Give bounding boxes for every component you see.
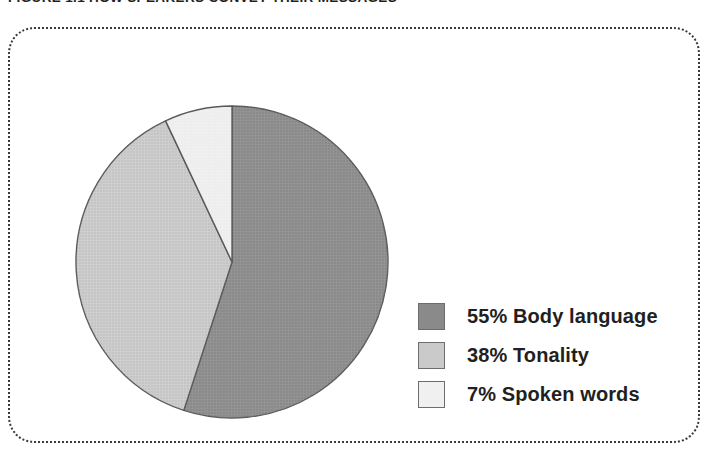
- legend-swatch: [418, 381, 445, 408]
- legend-swatch: [418, 342, 445, 369]
- legend-item: 55% Body language: [418, 297, 688, 336]
- legend-label: 38% Tonality: [467, 344, 589, 367]
- pie-slices: [76, 106, 388, 418]
- legend-item: 38% Tonality: [418, 336, 688, 375]
- legend-label: 55% Body language: [467, 305, 658, 328]
- chart-legend: 55% Body language38% Tonality7% Spoken w…: [418, 297, 688, 414]
- figure-caption-strip: FIGURE 1.1 HOW SPEAKERS CONVEY THEIR MES…: [0, 0, 725, 9]
- pie-chart-svg: [73, 103, 391, 421]
- legend-swatch: [418, 303, 445, 330]
- pie-chart: [73, 103, 391, 421]
- legend-label: 7% Spoken words: [467, 383, 640, 406]
- legend-item: 7% Spoken words: [418, 375, 688, 414]
- figure-caption: FIGURE 1.1 HOW SPEAKERS CONVEY THEIR MES…: [8, 0, 397, 5]
- figure-frame: 55% Body language38% Tonality7% Spoken w…: [8, 27, 700, 443]
